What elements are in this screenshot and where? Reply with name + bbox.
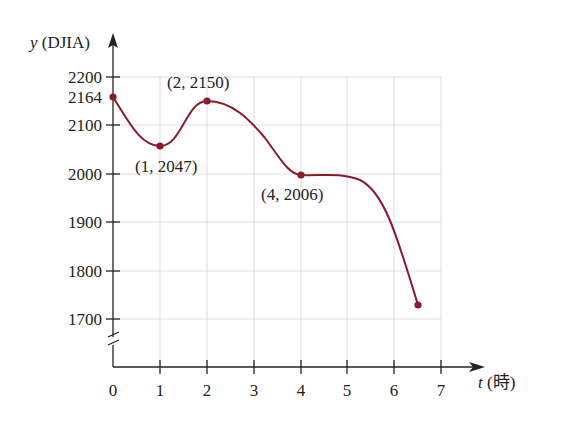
y-tick-2164: 2164 — [68, 88, 103, 107]
x-tick-3: 3 — [250, 381, 259, 400]
x-tick-labels: 0 1 2 3 4 5 6 7 — [109, 381, 446, 400]
x-tick-5: 5 — [343, 381, 352, 400]
chart: 2200 2164 2100 2000 1900 1800 1700 0 1 2… — [0, 0, 565, 425]
point-4 — [297, 171, 304, 178]
y-axis — [106, 44, 120, 367]
y-tick-2200: 2200 — [68, 68, 102, 87]
x-tick-1: 1 — [156, 381, 165, 400]
annotation-point-2: (2, 2150) — [167, 73, 229, 92]
annotation-point-1: (1, 2047) — [135, 157, 197, 176]
x-tick-2: 2 — [203, 381, 212, 400]
x-tick-6: 6 — [390, 381, 399, 400]
x-tick-4: 4 — [297, 381, 306, 400]
grid — [113, 77, 441, 367]
point-6-5 — [414, 301, 421, 308]
x-tick-7: 7 — [437, 381, 446, 400]
y-tick-1800: 1800 — [68, 262, 102, 281]
axis-break-mark — [108, 340, 119, 345]
x-tick-0: 0 — [109, 381, 118, 400]
y-tick-2100: 2100 — [68, 116, 102, 135]
y-tick-labels: 2200 2164 2100 2000 1900 1800 1700 — [68, 68, 103, 329]
point-2 — [203, 97, 210, 104]
point-1 — [156, 142, 163, 149]
annotation-point-4: (4, 2006) — [261, 185, 323, 204]
x-axis-title: t (時) — [478, 373, 515, 392]
y-tick-1700: 1700 — [68, 310, 102, 329]
y-axis-title: y (DJIA) — [28, 33, 90, 52]
x-axis — [113, 360, 474, 374]
y-tick-1900: 1900 — [68, 213, 102, 232]
point-0 — [109, 93, 116, 100]
y-tick-2000: 2000 — [68, 165, 102, 184]
